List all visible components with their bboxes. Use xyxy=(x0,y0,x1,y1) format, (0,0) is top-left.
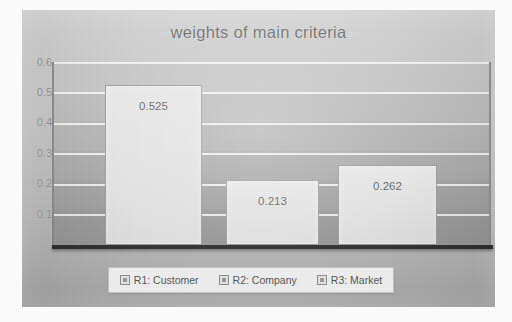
legend-item-r3-market[interactable]: R3: Market xyxy=(317,274,382,286)
y-axis: 0.6 0.5 0.4 0.3 0.2 0.1 xyxy=(22,10,52,307)
legend-label: R2: Company xyxy=(233,274,297,286)
screenshot-root: weights of main criteria 0.6 0.5 0.4 0.3… xyxy=(0,0,512,322)
y-tick-label: 0.4 xyxy=(18,116,52,128)
bar-value-label: 0.525 xyxy=(106,100,201,112)
chart-frame: weights of main criteria 0.6 0.5 0.4 0.3… xyxy=(22,10,495,307)
x-axis-line xyxy=(52,245,493,249)
y-tick-label: 0.2 xyxy=(18,177,52,189)
legend-swatch-icon xyxy=(120,275,130,285)
legend-label: R1: Customer xyxy=(134,274,199,286)
plot-area: 0.525 0.213 0.262 xyxy=(52,62,489,245)
plot-right-border xyxy=(489,62,491,245)
legend-label: R3: Market xyxy=(331,274,382,286)
bar-r2-company[interactable]: 0.213 xyxy=(226,180,319,245)
legend-item-r2-company[interactable]: R2: Company xyxy=(219,274,297,286)
y-tick-label: 0.5 xyxy=(18,86,52,98)
y-tick-label: 0.3 xyxy=(18,147,52,159)
bar-value-label: 0.262 xyxy=(339,180,436,192)
y-tick-label: 0.1 xyxy=(18,208,52,220)
legend-swatch-icon xyxy=(317,275,327,285)
y-tick-label: 0.6 xyxy=(18,56,52,68)
bar-r3-market[interactable]: 0.262 xyxy=(338,165,437,245)
bar-value-label: 0.213 xyxy=(227,195,318,207)
legend-swatch-icon xyxy=(219,275,229,285)
bar-r1-customer[interactable]: 0.525 xyxy=(105,85,202,245)
legend-item-r1-customer[interactable]: R1: Customer xyxy=(120,274,199,286)
chart-legend: R1: Customer R2: Company R3: Market xyxy=(108,267,394,293)
gridline xyxy=(54,62,489,64)
chart-title: weights of main criteria xyxy=(22,23,495,42)
